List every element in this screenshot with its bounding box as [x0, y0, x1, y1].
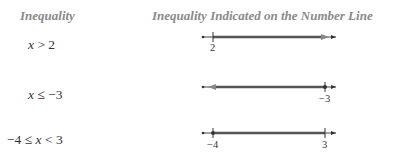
number-line-2: −3: [195, 78, 345, 104]
closed-dot-icon: [323, 85, 327, 89]
inequality-expression-1: x > 2: [28, 37, 55, 53]
header-number-line: Inequality Indicated on the Number Line: [152, 8, 373, 24]
expr-right: < 3: [42, 132, 63, 147]
number-line-1: 2: [195, 28, 345, 52]
tick-label-2: 2: [210, 42, 215, 53]
tick-label-3: 3: [322, 139, 327, 150]
right-arrow-icon: [331, 131, 336, 135]
right-arrow-icon: [331, 35, 336, 39]
expr-rest: ≤ −3: [34, 87, 63, 102]
header-inequality: Inequality: [20, 8, 75, 24]
shade-arrow-icon: [321, 34, 329, 40]
expr-rest: > 2: [34, 37, 55, 52]
tick-label-minus-3: −3: [319, 93, 330, 104]
tick-label-minus-4: −4: [207, 139, 219, 150]
closed-dot-icon: [211, 131, 215, 135]
inequality-expression-2: x ≤ −3: [28, 87, 63, 103]
left-end-dot-icon: [202, 36, 205, 39]
inequality-expression-3: −4 ≤ x < 3: [7, 132, 63, 148]
number-line-3: −4 3: [195, 124, 345, 150]
shade-arrow-left-icon: [208, 84, 216, 90]
left-end-dot-icon: [202, 132, 205, 135]
right-arrow-icon: [331, 85, 336, 89]
left-end-dot-icon: [202, 86, 205, 89]
expr-left: −4 ≤: [7, 132, 36, 147]
